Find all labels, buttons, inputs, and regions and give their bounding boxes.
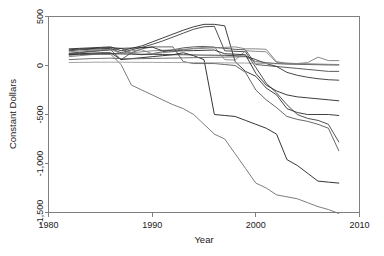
- x-tick-label: 1980: [38, 220, 58, 230]
- y-axis-ticks: 5000-500-1,000-1,500: [35, 9, 49, 225]
- y-tick-label: -500: [35, 105, 45, 123]
- series-line-series-1: [69, 24, 339, 115]
- x-tick-label: 1990: [142, 220, 162, 230]
- y-tick-label: -1,000: [35, 151, 45, 177]
- line-chart-canvas: 5000-500-1,000-1,500 1980199020002010 Co…: [0, 0, 384, 256]
- x-tick-label: 2000: [246, 220, 266, 230]
- series-group: [69, 24, 339, 213]
- y-axis-title: Constant Dollars: [7, 79, 18, 149]
- y-tick-label: 500: [35, 9, 45, 24]
- chart-screenshot: 5000-500-1,000-1,500 1980199020002010 Co…: [0, 0, 384, 256]
- y-tick-label: 0: [35, 63, 45, 68]
- series-line-series-5: [69, 54, 339, 213]
- series-line-series-4: [69, 53, 339, 183]
- x-tick-label: 2010: [349, 220, 369, 230]
- x-axis-ticks: 1980199020002010: [38, 213, 369, 230]
- x-axis-title: Year: [194, 234, 213, 245]
